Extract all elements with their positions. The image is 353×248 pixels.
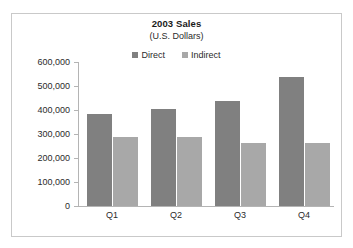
bar-direct-q2 — [151, 109, 176, 206]
y-axis-tick-label: 400,000 — [37, 105, 70, 115]
bar-group — [87, 14, 138, 206]
y-axis-tick-label: 100,000 — [37, 177, 70, 187]
bar-indirect-q4 — [305, 143, 330, 206]
bar-indirect-q1 — [113, 137, 138, 206]
bar-direct-q4 — [279, 77, 304, 206]
y-axis-tick-label: 500,000 — [37, 81, 70, 91]
plot-area: 0100,000200,000300,000400,000500,000600,… — [12, 14, 343, 236]
y-axis-tick-label: 0 — [65, 201, 70, 211]
bar-indirect-q3 — [241, 143, 266, 206]
y-axis-tick-label: 300,000 — [37, 129, 70, 139]
x-axis-label-q2: Q2 — [151, 210, 201, 220]
bar-direct-q3 — [215, 101, 240, 206]
chart-frame: 2003 Sales (U.S. Dollars) Direct Indirec… — [11, 13, 342, 237]
x-axis-label-q4: Q4 — [279, 210, 329, 220]
x-axis-label-q1: Q1 — [87, 210, 137, 220]
y-axis-tick-label: 600,000 — [37, 57, 70, 67]
y-axis-tick-label: 200,000 — [37, 153, 70, 163]
bars-layer — [79, 14, 334, 206]
bar-group — [279, 14, 330, 206]
y-axis-tick — [74, 206, 79, 207]
x-axis-line — [78, 206, 334, 207]
bar-indirect-q2 — [177, 137, 202, 206]
bar-group — [151, 14, 202, 206]
x-axis-label-q3: Q3 — [215, 210, 265, 220]
bar-direct-q1 — [87, 114, 112, 206]
bar-group — [215, 14, 266, 206]
